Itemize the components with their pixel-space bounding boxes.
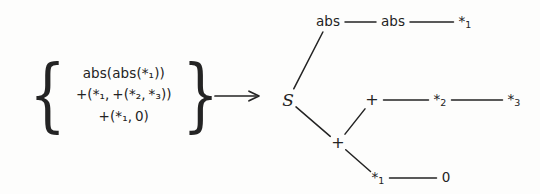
dag-node-abs-top: abs [316,15,340,29]
expression-line-1: abs(abs(*₁)) [83,63,165,84]
dag-node-star1-low: *1 [372,171,385,186]
expression-set: { abs(abs(*₁)) +(*₁, +(*₂, *₃)) +(*₁, 0)… [22,52,226,138]
dag-node-star3: *3 [508,93,521,108]
dag-node-label: S [282,90,294,110]
transform-arrow-icon [214,88,264,104]
expression-line-2: +(*₁, +(*₂, *₃)) [76,84,172,105]
expression-line-3: +(*₁, 0) [99,106,149,127]
dag-node-root-s: S [282,92,294,109]
figure-canvas: { abs(abs(*₁)) +(*₁, +(*₂, *₃)) +(*₁, 0)… [0,0,540,194]
dag-node-subscript: 1 [465,19,471,30]
expression-dag: absabs*1S+*2*3+*10 [268,0,540,194]
dag-node-label: * [434,91,441,107]
right-brace: } [182,62,219,128]
dag-node-label: 0 [442,169,451,185]
dag-edge-e-plusLow-star1 [346,150,371,172]
dag-node-label: + [331,133,344,152]
dag-node-subscript: 1 [378,175,384,186]
dag-node-label: + [365,90,378,109]
dag-node-subscript: 2 [440,97,446,108]
dag-node-label: * [508,91,515,107]
dag-node-zero: 0 [442,171,451,185]
dag-node-label: abs [381,13,405,29]
dag-node-plus-low: + [331,135,344,151]
dag-node-label: abs [316,13,340,29]
expression-list: abs(abs(*₁)) +(*₁, +(*₂, *₃)) +(*₁, 0) [72,63,176,126]
dag-edge-e-root-plusLow [296,107,330,136]
dag-node-star1-top: *1 [459,15,472,30]
left-brace: { [29,62,66,128]
dag-node-subscript: 3 [514,97,520,108]
dag-node-star2: *2 [434,93,447,108]
dag-edge-e-plusLow-plusMid [345,109,365,134]
dag-node-abs-mid: abs [381,15,405,29]
dag-node-label: * [372,169,379,185]
dag-edge-e-root-absTop [294,32,323,89]
dag-node-plus-mid: + [365,92,378,108]
dag-node-label: * [459,13,466,29]
